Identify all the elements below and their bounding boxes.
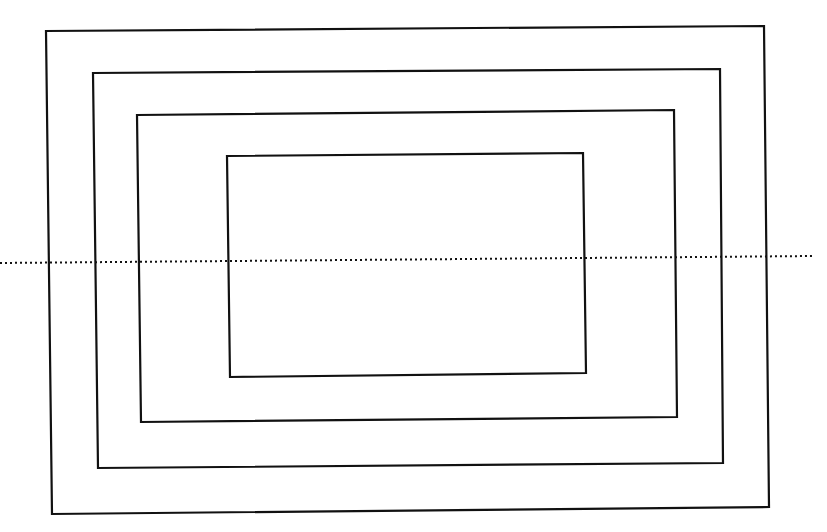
dotted-horizontal-line xyxy=(0,256,814,263)
rectangle-second xyxy=(93,69,723,468)
rectangles-group xyxy=(46,26,769,514)
rectangle-inner xyxy=(227,153,586,377)
nested-rectangles-diagram xyxy=(0,0,827,532)
rectangle-outer xyxy=(46,26,769,514)
